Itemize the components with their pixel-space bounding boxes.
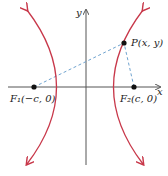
x-axis-label: x [157, 87, 163, 97]
focus2-label: F₂(c, 0) [120, 94, 157, 104]
focus1-label: F₁(−c, 0) [10, 94, 55, 104]
dashed-f2-p [124, 43, 134, 87]
focus1-point [31, 84, 36, 89]
focus2-point [131, 84, 136, 89]
hyperbola-diagram: y x P(x, y) F₁(−c, 0) F₂(c, 0) [0, 0, 168, 176]
point-p [121, 40, 126, 45]
dashed-f1-p [34, 43, 124, 87]
diagram-canvas [0, 0, 168, 176]
point-p-label: P(x, y) [131, 38, 163, 48]
y-axis-label: y [76, 8, 82, 18]
